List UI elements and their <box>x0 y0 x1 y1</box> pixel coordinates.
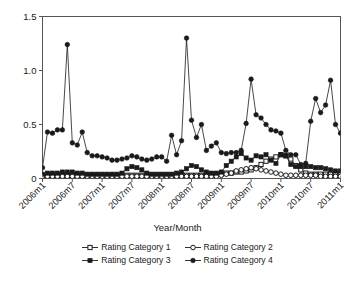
y-axis-tick-label: 1.5 <box>23 11 36 22</box>
chart-plot-area: 00.51.01.52006m12006m72007m12007m72008m1… <box>0 0 355 282</box>
x-axis-tick-label: 2008m1 <box>136 180 167 211</box>
x-axis-tick-label: 2011m1 <box>315 180 345 210</box>
legend-item-label: Rating Category 2 <box>204 242 273 252</box>
x-axis-tick-label: 2008m7 <box>166 180 197 211</box>
legend-item-label: Rating Category 4 <box>204 255 273 265</box>
y-axis-tick-label: 1.0 <box>23 65 36 76</box>
x-axis-tick-label: 2006m1 <box>17 180 48 211</box>
chart-legend: Rating Category 1Rating Category 2Rating… <box>0 242 355 265</box>
legend-row: Rating Category 3Rating Category 4 <box>82 255 273 265</box>
x-axis-tick-label: 2007m1 <box>76 180 107 211</box>
filled-circle-marker-icon <box>185 256 201 265</box>
open-circle-marker-icon <box>185 243 201 252</box>
y-axis-tick-label: 0.5 <box>23 119 36 130</box>
legend-item-label: Rating Category 1 <box>101 242 170 252</box>
open-square-marker-icon <box>82 243 98 252</box>
legend-item-rating-category-4[interactable]: Rating Category 4 <box>185 255 273 265</box>
series-4 <box>40 36 343 170</box>
filled-square-marker-icon <box>82 256 98 265</box>
x-axis-tick-label: 2007m7 <box>106 180 137 211</box>
legend-item-rating-category-3[interactable]: Rating Category 3 <box>82 255 170 265</box>
chart-figure: 00.51.01.52006m12006m72007m12007m72008m1… <box>0 0 355 282</box>
legend-row: Rating Category 1Rating Category 2 <box>82 242 273 252</box>
legend-item-label: Rating Category 3 <box>101 255 170 265</box>
x-axis-tick-label: 2006m7 <box>47 180 78 211</box>
x-axis-tick-label: 2010m1 <box>255 180 286 211</box>
legend-item-rating-category-1[interactable]: Rating Category 1 <box>82 242 170 252</box>
x-axis-tick-label: 2009m1 <box>196 180 227 211</box>
legend-item-rating-category-2[interactable]: Rating Category 2 <box>185 242 273 252</box>
x-axis-title: Year/Month <box>0 222 355 233</box>
x-axis-tick-label: 2010m7 <box>285 180 316 211</box>
x-axis-tick-label: 2009m7 <box>225 180 256 211</box>
y-axis-tick-label: 0 <box>31 173 36 184</box>
